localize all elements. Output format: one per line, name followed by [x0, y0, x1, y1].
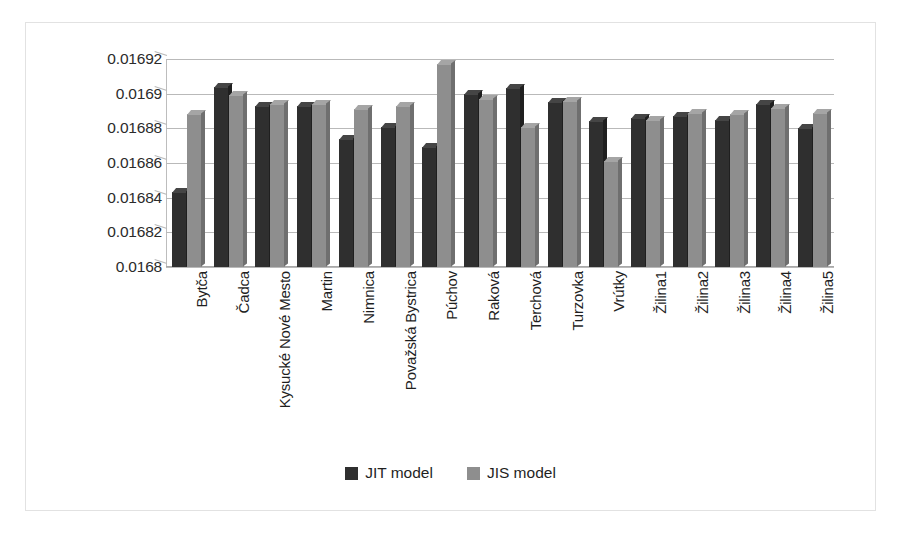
y-axis-tick-label: 0.0168: [116, 258, 162, 276]
x-axis-tick-label: Turzovka: [569, 271, 586, 331]
bar-side: [702, 109, 706, 266]
bar-face: [521, 127, 536, 267]
bar-jis: [229, 95, 244, 267]
bar-face: [798, 128, 813, 267]
legend-item-jis[interactable]: JIS model: [467, 464, 556, 482]
bar-face: [214, 87, 229, 267]
chart-frame: 0.016920.01690.016880.016860.016840.0168…: [25, 22, 876, 511]
legend-item-jit[interactable]: JIT model: [345, 464, 433, 482]
bar-face: [813, 113, 828, 267]
bar-jis: [521, 127, 536, 267]
bar-group: [422, 59, 452, 267]
bar-jit: [548, 102, 563, 267]
x-axis-tick-label: Bytča: [193, 271, 210, 308]
bar-face: [172, 192, 187, 267]
bar-side: [744, 111, 748, 267]
bar-face: [479, 99, 494, 267]
bar-group: [631, 59, 661, 267]
bar-face: [506, 88, 521, 267]
bar-jis: [771, 108, 786, 267]
chart-legend: JIT modelJIS model: [26, 464, 875, 482]
bar-face: [396, 106, 411, 267]
bar-jit: [422, 147, 437, 267]
y-axis-tick-label: 0.01684: [107, 189, 162, 207]
bar-side: [326, 101, 330, 267]
bar-side: [535, 123, 539, 267]
bar-jit: [756, 104, 771, 267]
bar-group: [798, 59, 828, 267]
legend-label: JIT model: [365, 464, 433, 482]
bar-jit: [297, 106, 312, 267]
x-axis-labels: BytčaČadcaKysucké Nové MestoMartinNimnic…: [166, 271, 834, 441]
bar-jis: [479, 99, 494, 267]
y-axis-tick-label: 0.01688: [107, 119, 162, 137]
bar-group: [715, 59, 745, 267]
bar-face: [715, 120, 730, 267]
bar-face: [730, 114, 745, 267]
bar-group: [548, 59, 578, 267]
bar-jis: [187, 114, 202, 267]
bar-side: [827, 109, 831, 266]
bar-jis: [437, 64, 452, 267]
legend-swatch-jis: [467, 467, 480, 480]
bar-group: [255, 59, 285, 267]
bar-face: [631, 118, 646, 267]
bar-side: [618, 158, 622, 267]
bar-jit: [715, 120, 730, 267]
legend-label: JIS model: [487, 464, 556, 482]
bar-group: [464, 59, 494, 267]
bar-side: [410, 102, 414, 266]
bar-group: [589, 59, 619, 267]
bar-jit: [631, 118, 646, 267]
x-axis-tick-label: Kysucké Nové Mesto: [276, 271, 293, 408]
bar-side: [284, 101, 288, 267]
bar-group: [673, 59, 703, 267]
bar-face: [339, 139, 354, 267]
bar-face: [297, 106, 312, 267]
bar-group: [172, 59, 202, 267]
bar-side: [451, 61, 455, 267]
bar-face: [646, 120, 661, 267]
bar-jit: [339, 139, 354, 267]
x-axis-tick-label: Raková: [485, 271, 502, 321]
x-axis-tick-label: Čadca: [235, 271, 252, 313]
bar-group: [297, 59, 327, 267]
bar-side: [368, 106, 372, 267]
bar-face: [187, 114, 202, 267]
bar-group: [506, 59, 536, 267]
x-axis-tick-label: Vrútky: [610, 271, 627, 312]
bar-side: [660, 116, 664, 266]
y-axis-tick-label: 0.01686: [107, 154, 162, 172]
bar-face: [354, 109, 369, 267]
bar-jit: [214, 87, 229, 267]
bar-jis: [396, 106, 411, 267]
bar-group: [339, 59, 369, 267]
x-axis-tick-label: Žilina2: [694, 271, 711, 314]
x-axis-tick-label: Žilina1: [652, 271, 669, 314]
bar-jis: [646, 120, 661, 267]
y-axis-tick-label: 0.01692: [107, 50, 162, 68]
bar-face: [229, 95, 244, 267]
gridline: [166, 267, 834, 268]
x-axis-tick-label: Terchová: [527, 271, 544, 330]
x-axis-tick-label: Martin: [318, 271, 335, 311]
bar-jit: [506, 88, 521, 267]
bar-jis: [813, 113, 828, 267]
bar-jis: [312, 104, 327, 267]
x-axis-tick-label: Žilina3: [736, 271, 753, 314]
bar-jit: [255, 106, 270, 267]
x-axis-tick-label: Žilina4: [777, 271, 794, 314]
bar-jit: [589, 121, 604, 267]
bar-jit: [172, 192, 187, 267]
bar-face: [464, 94, 479, 267]
bar-side: [201, 111, 205, 267]
x-axis-tick-label: Púchov: [443, 271, 460, 320]
bar-jis: [270, 104, 285, 267]
bar-side: [493, 95, 497, 266]
bar-jit: [464, 94, 479, 267]
bar-face: [688, 113, 703, 267]
bar-group: [756, 59, 786, 267]
bar-jis: [730, 114, 745, 267]
y-axis-labels: 0.016920.01690.016880.016860.016840.0168…: [78, 59, 162, 267]
bar-jis: [354, 109, 369, 267]
